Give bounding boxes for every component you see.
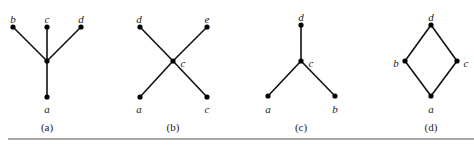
diagram-caption: (d) [425,121,438,134]
node-d [298,22,303,27]
diagram-caption: (a) [41,121,54,134]
node-c2 [204,94,209,99]
edge-d-b [405,25,431,61]
node-label: e [205,13,210,25]
node-e [204,24,209,29]
edge-c-a [431,61,457,96]
node-label: c [309,57,314,69]
node-m [44,58,49,63]
node-d [137,24,142,29]
edge-d-m [47,27,81,61]
edge-d-c [431,25,457,61]
diagram-c: dcab(c) [265,11,338,134]
edge-d-c [140,27,173,61]
node-a [44,94,49,99]
node-label: a [136,103,142,115]
diagram-caption: (c) [295,121,308,134]
node-label: a [265,103,271,115]
node-a [137,94,142,99]
edge-c-b [301,61,335,96]
node-b [10,24,15,29]
node-label: d [428,11,434,23]
node-c [454,58,459,63]
edge-b-m [13,27,47,61]
node-d [78,24,83,29]
node-label: d [298,11,304,23]
edge-e-c [173,27,207,61]
node-d [428,22,433,27]
node-label: b [332,103,338,115]
diagram-caption: (b) [167,121,180,134]
node-c [298,58,303,63]
node-label: c [205,103,210,115]
node-a [428,93,433,98]
node-b [332,93,337,98]
node-b [402,58,407,63]
node-label: b [393,57,399,69]
node-label: c [181,57,186,69]
edge-c-c2 [173,61,207,97]
node-a [265,93,270,98]
node-label: d [136,13,142,25]
node-label: a [44,103,50,115]
node-c [44,24,49,29]
node-label: c [45,13,50,25]
diagram-a: bcda(a) [10,13,84,134]
diagram-b: decac(b) [136,13,209,134]
edge-c-a [140,61,173,97]
node-label: c [464,57,469,69]
node-label: d [78,13,84,25]
edge-b-a [405,61,431,96]
node-label: b [10,13,16,25]
hasse-diagrams-figure: bcda(a)decac(b)dcab(c)dbca(d) [0,0,474,148]
diagram-d: dbca(d) [393,11,468,134]
node-c [170,58,175,63]
edge-c-a [268,61,301,96]
node-label: a [428,103,434,115]
